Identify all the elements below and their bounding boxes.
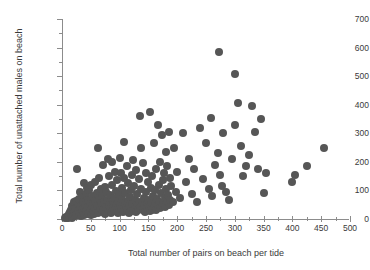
data-point <box>132 166 140 174</box>
data-point <box>262 169 270 177</box>
x-axis-title: Total number of pairs on beach per tide <box>62 248 350 258</box>
data-point <box>176 194 184 202</box>
data-point <box>185 155 193 163</box>
data-point <box>234 99 242 107</box>
data-point <box>173 168 181 176</box>
data-point <box>136 112 144 120</box>
data-point <box>95 174 103 182</box>
data-point <box>73 165 81 173</box>
y-axis-title: Total number of unattached males on beac… <box>14 11 24 221</box>
data-point <box>163 162 171 170</box>
data-point <box>137 144 145 152</box>
data-point <box>219 129 227 137</box>
data-point <box>225 196 233 204</box>
data-point <box>188 190 196 198</box>
data-point <box>215 48 223 56</box>
data-point <box>120 138 128 146</box>
data-point <box>260 189 268 197</box>
data-point <box>170 144 178 152</box>
data-point <box>135 175 143 183</box>
data-point <box>116 154 124 162</box>
x-tick-label-500: 500 <box>330 224 370 233</box>
data-point <box>179 129 187 137</box>
data-point <box>108 158 116 166</box>
data-point <box>150 139 158 147</box>
data-point <box>222 188 230 196</box>
data-point <box>199 175 207 183</box>
data-point <box>162 148 170 156</box>
data-point <box>254 165 262 173</box>
data-point <box>231 70 239 78</box>
data-point <box>202 139 210 147</box>
data-point <box>190 165 198 173</box>
data-point <box>291 171 299 179</box>
data-point <box>165 128 173 136</box>
data-point <box>251 128 259 136</box>
data-point <box>166 174 174 182</box>
data-point <box>196 124 204 132</box>
data-point <box>239 172 247 180</box>
data-point <box>148 172 156 180</box>
plot-area <box>62 19 350 219</box>
data-point <box>208 192 216 200</box>
data-point <box>193 198 201 206</box>
data-point <box>242 162 250 170</box>
data-point <box>257 115 265 123</box>
data-point <box>129 156 137 164</box>
data-point <box>320 144 328 152</box>
data-point <box>182 178 190 186</box>
data-point <box>228 155 236 163</box>
data-point <box>231 121 239 129</box>
data-point <box>214 149 222 157</box>
data-point <box>237 142 245 150</box>
data-point <box>154 121 162 129</box>
data-point <box>288 178 296 186</box>
data-point <box>245 151 253 159</box>
data-point <box>216 171 224 179</box>
x-tick-500 <box>350 216 351 222</box>
data-point <box>211 161 219 169</box>
data-point <box>139 159 147 167</box>
data-point <box>146 108 154 116</box>
data-point <box>303 162 311 170</box>
data-point <box>248 102 256 110</box>
data-point <box>94 144 102 152</box>
data-point <box>207 114 215 122</box>
